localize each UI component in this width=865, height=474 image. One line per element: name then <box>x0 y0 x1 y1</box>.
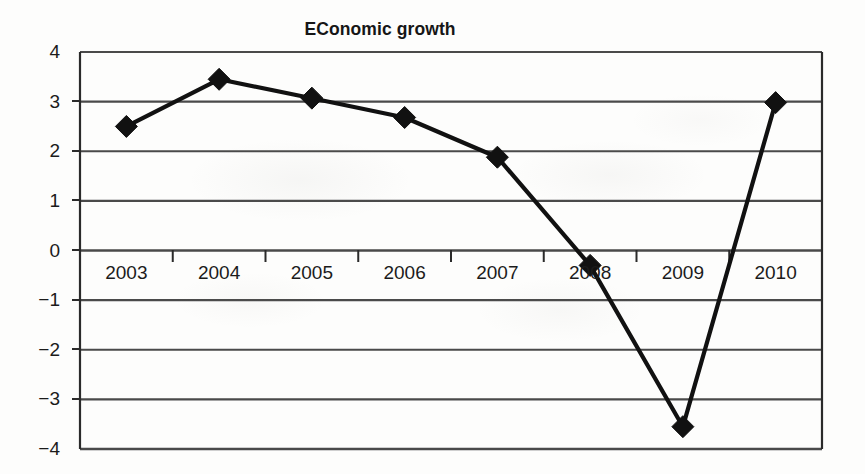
x-tick-marks <box>80 250 822 262</box>
x-tick-label-2009: 2009 <box>637 262 730 284</box>
data-point-2003 <box>115 115 137 137</box>
x-tick-label-2008: 2008 <box>544 262 637 284</box>
x-tick-label-2005: 2005 <box>266 262 359 284</box>
x-tick-label-2007: 2007 <box>451 262 544 284</box>
line-chart-plot <box>0 0 865 474</box>
data-point-2010 <box>765 92 787 114</box>
y-tick-label-minus3: −3 <box>12 388 60 410</box>
y-tick-label-minus4: −4 <box>12 438 60 460</box>
y-tick-label-2: 2 <box>12 140 60 162</box>
y-tick-label-4: 4 <box>12 41 60 63</box>
x-tick-label-2003: 2003 <box>80 262 173 284</box>
data-point-2006 <box>394 107 416 129</box>
x-tick-label-2006: 2006 <box>358 262 451 284</box>
y-tick-label-3: 3 <box>12 91 60 113</box>
y-tick-label-1: 1 <box>12 190 60 212</box>
y-tick-marks <box>72 101 80 399</box>
y-tick-label-minus1: −1 <box>12 289 60 311</box>
x-tick-label-2004: 2004 <box>173 262 266 284</box>
y-tick-label-minus2: −2 <box>12 339 60 361</box>
data-point-2005 <box>301 87 323 109</box>
x-tick-label-2010: 2010 <box>729 262 822 284</box>
chart-page: EConomic growth <box>0 0 865 474</box>
y-tick-label-0: 0 <box>12 240 60 262</box>
data-point-2009 <box>672 416 694 438</box>
chart-title: EConomic growth <box>0 19 760 40</box>
data-point-2004 <box>208 68 230 90</box>
